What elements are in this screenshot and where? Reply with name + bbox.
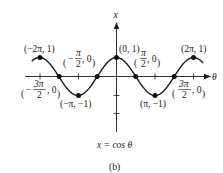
svg-text:): ) bbox=[157, 58, 160, 69]
label-3pi-over-2: ( 3π 2 , 0 ) bbox=[172, 79, 205, 100]
label-neg-2pi: (−2π, 1) bbox=[24, 44, 55, 55]
svg-text:, 0: , 0 bbox=[192, 85, 202, 95]
svg-text:(: ( bbox=[172, 89, 175, 100]
svg-text:3π: 3π bbox=[33, 79, 44, 89]
label-zero: (0, 1) bbox=[119, 44, 140, 55]
point-zero bbox=[114, 55, 119, 60]
label-pi: (π, −1) bbox=[140, 99, 166, 110]
x-axis-arrow-icon bbox=[114, 22, 119, 29]
point-3pi-2 bbox=[172, 74, 177, 79]
svg-text:2: 2 bbox=[182, 90, 187, 100]
svg-text:, 0: , 0 bbox=[82, 54, 92, 64]
function-caption: x = cos θ bbox=[96, 140, 132, 150]
svg-text:−: − bbox=[26, 85, 31, 95]
point-pi-2 bbox=[133, 74, 138, 79]
label-2pi: (2π, 1) bbox=[181, 44, 206, 55]
svg-text:π: π bbox=[141, 48, 146, 58]
svg-text:2: 2 bbox=[37, 90, 42, 100]
point-neg-pi bbox=[76, 93, 81, 98]
point-pi bbox=[153, 93, 158, 98]
point-neg-3pi-2 bbox=[57, 74, 62, 79]
subfigure-label: (b) bbox=[109, 162, 120, 173]
svg-text:2: 2 bbox=[76, 59, 81, 69]
theta-axis-arrow-icon bbox=[204, 74, 211, 79]
svg-text:π: π bbox=[76, 48, 81, 58]
svg-text:, 0: , 0 bbox=[47, 85, 57, 95]
label-neg-3pi-over-2: ( − 3π 2 , 0 ) bbox=[21, 79, 60, 100]
svg-text:): ) bbox=[202, 89, 205, 100]
svg-text:(: ( bbox=[21, 89, 24, 100]
point-2pi bbox=[191, 55, 196, 60]
x-axis-label: x bbox=[113, 10, 119, 20]
point-neg-pi-2 bbox=[95, 74, 100, 79]
svg-text:(: ( bbox=[134, 58, 137, 69]
svg-text:, 0: , 0 bbox=[147, 54, 157, 64]
svg-text:(: ( bbox=[63, 58, 66, 69]
svg-text:2: 2 bbox=[141, 59, 146, 69]
label-neg-pi-over-2: ( − π 2 , 0 ) bbox=[63, 48, 95, 69]
label-neg-pi: (−π, −1) bbox=[60, 99, 91, 110]
svg-text:−: − bbox=[68, 54, 73, 64]
cosine-graph: x θ (−2π, 1) (0, 1) (2π, 1) (−π, −1) (π,… bbox=[0, 0, 223, 173]
point-neg-2pi bbox=[38, 55, 43, 60]
theta-axis-label: θ bbox=[212, 72, 217, 82]
svg-text:): ) bbox=[92, 58, 95, 69]
svg-text:3π: 3π bbox=[178, 79, 189, 89]
svg-text:): ) bbox=[57, 89, 60, 100]
